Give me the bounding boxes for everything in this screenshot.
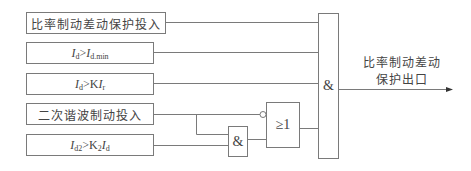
and-symbol: &	[323, 78, 334, 94]
input-id-gt-kir: Id>KIr	[26, 73, 154, 95]
condition-label: Id>Id.min	[71, 46, 108, 61]
condition-label: Id>KIr	[75, 77, 105, 92]
or-gate: ≥1	[266, 102, 300, 148]
and-symbol: &	[233, 134, 244, 150]
input-label: 二次谐波制动投入	[38, 106, 142, 123]
and-gate-main: &	[318, 13, 339, 159]
or-symbol: ≥1	[276, 117, 291, 133]
output-label-line2: 保护出口	[356, 72, 448, 89]
and-gate-small: &	[228, 126, 248, 157]
output-label-line1: 比率制动差动	[356, 55, 448, 72]
input-2nd-harmonic-enable: 二次谐波制动投入	[26, 103, 154, 125]
input-label: 比率制动差动保护投入	[31, 15, 161, 32]
input-id2-gt-k2id: Id2>K2Id	[26, 134, 154, 156]
condition-label: Id2>K2Id	[70, 138, 109, 153]
input-id-gt-idmin: Id>Id.min	[26, 42, 154, 64]
output-label: 比率制动差动 保护出口	[356, 55, 448, 89]
input-ratio-diff-enable: 比率制动差动保护投入	[26, 12, 166, 34]
